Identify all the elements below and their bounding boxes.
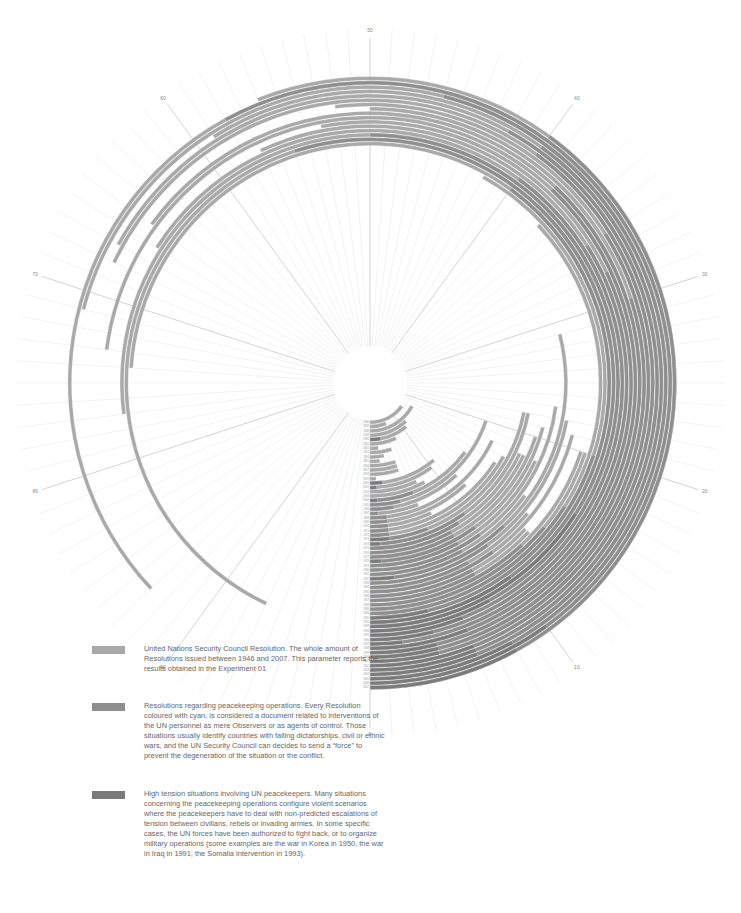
year-label: 1994 xyxy=(363,629,369,633)
year-label: 1956 xyxy=(363,464,369,468)
year-label: 1961 xyxy=(363,485,369,489)
grid-line xyxy=(71,403,339,573)
year-label: 1973 xyxy=(363,537,369,541)
year-label: 2007 xyxy=(363,685,369,689)
legend-text-peacekeeping: Resolutions regarding peacekeeping opera… xyxy=(144,701,388,761)
year-label: 1971 xyxy=(363,529,369,533)
grid-line xyxy=(18,388,333,428)
tick-label: 20 xyxy=(702,488,708,494)
grid-line xyxy=(167,413,348,662)
year-label: 1969 xyxy=(363,520,369,524)
year-label: 1988 xyxy=(363,603,369,607)
tick-label: 70 xyxy=(32,271,38,277)
year-label: 1976 xyxy=(363,551,369,555)
grid-line xyxy=(49,232,336,367)
year-label: 1990 xyxy=(363,611,369,615)
legend-swatch-peacekeeping xyxy=(92,703,125,711)
year-label: 1950 xyxy=(363,437,369,441)
grid-line xyxy=(180,414,350,682)
grid-line xyxy=(144,412,347,657)
tick-label: 50 xyxy=(367,27,373,33)
year-label: 1980 xyxy=(363,568,369,572)
grid-line xyxy=(16,385,333,405)
legend-text-high-tension: High tension situations involving UN pea… xyxy=(144,789,388,859)
year-label: 1960 xyxy=(363,481,369,485)
year-label: 1964 xyxy=(363,498,369,502)
year-label: 1962 xyxy=(363,490,369,494)
year-label: 1991 xyxy=(363,616,369,620)
grid-line xyxy=(40,397,335,514)
grid-line xyxy=(59,212,337,365)
year-label: 1958 xyxy=(363,472,369,476)
legend-swatch-high-tension xyxy=(92,791,125,799)
year-label: 2005 xyxy=(363,677,369,681)
year-label: 1982 xyxy=(363,577,369,581)
year-label: 1984 xyxy=(363,585,369,589)
year-label: 1996 xyxy=(363,638,369,642)
year-label: 1993 xyxy=(363,624,369,628)
year-label: 1979 xyxy=(363,564,369,568)
grid-line xyxy=(59,401,337,554)
year-label: 1987 xyxy=(363,598,369,602)
year-label: 1985 xyxy=(363,590,369,594)
radial-resolutions-chart: 0102030405060708090 19461947194819491950… xyxy=(0,0,741,913)
year-label: 1952 xyxy=(363,446,369,450)
year-label: 1989 xyxy=(363,607,369,611)
year-label: 1975 xyxy=(363,546,369,550)
year-label: 1978 xyxy=(363,559,369,563)
year-label: 1951 xyxy=(363,442,369,446)
grid-line xyxy=(127,410,344,642)
year-label: 1948 xyxy=(363,429,369,433)
grid-line xyxy=(180,84,350,352)
year-label: 1986 xyxy=(363,594,369,598)
grid-line xyxy=(388,72,541,350)
year-label: 1977 xyxy=(363,555,369,559)
legend-swatch-resolutions xyxy=(92,646,125,654)
year-label: 2006 xyxy=(363,681,369,685)
grid-line xyxy=(402,212,680,365)
legend-text-resolutions: United Nations Security Council Resoluti… xyxy=(144,644,388,674)
grid-line xyxy=(83,405,340,592)
grid-line xyxy=(326,420,366,735)
tick-label: 60 xyxy=(160,95,166,101)
year-label: 1954 xyxy=(363,455,369,459)
year-ring xyxy=(370,446,378,450)
year-label: 1965 xyxy=(363,503,369,507)
grid-line xyxy=(111,408,343,625)
year-label: 1968 xyxy=(363,516,369,520)
grid-line xyxy=(71,193,339,363)
year-label: 1966 xyxy=(363,507,369,511)
grid-line xyxy=(49,399,336,534)
year-label: 1970 xyxy=(363,524,369,528)
year-label: 1992 xyxy=(363,620,369,624)
tick-label: 10 xyxy=(574,664,580,670)
grid-line xyxy=(16,361,333,381)
year-label: 1949 xyxy=(363,433,369,437)
year-label: 1974 xyxy=(363,542,369,546)
tick-label: 30 xyxy=(702,271,708,277)
year-label: 1947 xyxy=(363,424,369,428)
year-label: 1981 xyxy=(363,572,369,576)
year-label: 1957 xyxy=(363,468,369,472)
year-label: 1967 xyxy=(363,511,369,515)
year-label: 1963 xyxy=(363,494,369,498)
grid-line xyxy=(199,72,352,350)
grid-line xyxy=(304,419,364,731)
tick-label: 80 xyxy=(32,488,38,494)
year-label: 1955 xyxy=(363,459,369,463)
year-label: 1983 xyxy=(363,581,369,585)
year-ring xyxy=(370,477,376,481)
year-label: 1953 xyxy=(363,450,369,454)
grid-line xyxy=(18,339,333,379)
year-ring xyxy=(370,459,380,463)
year-label: 1972 xyxy=(363,533,369,537)
tick-label: 40 xyxy=(574,95,580,101)
grid-line xyxy=(40,252,335,369)
grid-line xyxy=(260,418,358,720)
grid-line xyxy=(282,419,361,727)
year-label: 1995 xyxy=(363,633,369,637)
year-label: 1946 xyxy=(363,420,369,424)
year-label: 1959 xyxy=(363,477,369,481)
